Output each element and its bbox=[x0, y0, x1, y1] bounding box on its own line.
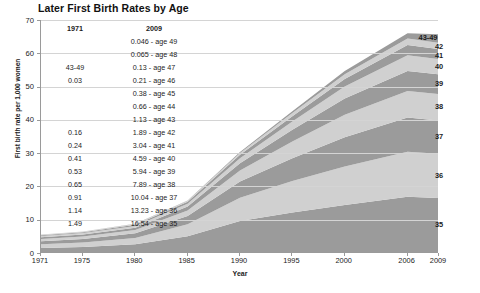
annotation-value-2009: 0.046 - age 49 bbox=[104, 35, 204, 48]
annotation-row: 0.66 - age 44 bbox=[46, 100, 211, 113]
annotation-row: 0.161.89 - age 42 bbox=[46, 126, 211, 139]
annotation-rows: 0.046 - age 490.065 - age 4843-490.13 - … bbox=[46, 35, 211, 231]
x-axis-tick-label: 2009 bbox=[418, 256, 458, 265]
annotation-value-2009: 4.59 - age 40 bbox=[104, 152, 204, 165]
annotation-value-2009: 5.94 - age 39 bbox=[104, 165, 204, 178]
series-label-35: 35 bbox=[419, 220, 459, 229]
x-axis-tick-label: 2000 bbox=[324, 256, 364, 265]
y-axis-tick-label: 50 bbox=[8, 82, 34, 91]
annotation-value-1971: 0.03 bbox=[46, 74, 104, 87]
annotation-row: 0.030.21 - age 46 bbox=[46, 74, 211, 87]
annotation-row: 0.9110.04 - age 37 bbox=[46, 191, 211, 204]
gridline bbox=[41, 20, 438, 21]
x-axis-tick-mark bbox=[291, 253, 292, 256]
annotation-value-2009: 1.89 - age 42 bbox=[104, 126, 204, 139]
annotation-row: 0.414.59 - age 40 bbox=[46, 152, 211, 165]
y-axis-tick-label: 60 bbox=[8, 49, 34, 58]
col-2009-header: 2009 bbox=[104, 24, 204, 33]
annotation-row: 1.1413.23 - age 36 bbox=[46, 204, 211, 217]
annotation-row: 0.046 - age 49 bbox=[46, 35, 211, 48]
chart-title: Later First Birth Rates by Age bbox=[38, 2, 438, 14]
y-axis-tick-label: 20 bbox=[8, 182, 34, 191]
x-axis-tick-mark bbox=[134, 253, 135, 256]
annotation-value-2009: 7.89 - age 38 bbox=[104, 178, 204, 191]
annotation-value-1971 bbox=[46, 48, 104, 61]
x-axis-tick-label: 1995 bbox=[271, 256, 311, 265]
annotation-row: 1.4916.54 - age 35 bbox=[46, 217, 211, 230]
x-axis-tick-mark bbox=[40, 253, 41, 256]
annotation-value-1971: 0.91 bbox=[46, 191, 104, 204]
col-1971-header: 1971 bbox=[46, 24, 104, 33]
annotation-value-2009: 1.13 - age 43 bbox=[104, 113, 204, 126]
annotation-row: 43-490.13 - age 47 bbox=[46, 61, 211, 74]
annotation-row: 0.065 - age 48 bbox=[46, 48, 211, 61]
annotation-value-2009: 0.38 - age 45 bbox=[104, 87, 204, 100]
y-axis-tick-label: 40 bbox=[8, 115, 34, 124]
series-label-39: 39 bbox=[419, 79, 459, 88]
series-label-40: 40 bbox=[419, 62, 459, 71]
series-label-42: 42 bbox=[419, 42, 459, 51]
x-axis-label: Year bbox=[0, 270, 480, 277]
x-axis-tick-mark bbox=[344, 253, 345, 256]
annotation-value-2009: 3.04 - age 41 bbox=[104, 139, 204, 152]
annotation-value-1971: 0.53 bbox=[46, 165, 104, 178]
annotation-value-2009: 0.13 - age 47 bbox=[104, 61, 204, 74]
series-label-41: 41 bbox=[419, 51, 459, 60]
x-axis-tick-mark bbox=[407, 253, 408, 256]
annotation-row: 0.38 - age 45 bbox=[46, 87, 211, 100]
x-axis-tick-mark bbox=[82, 253, 83, 256]
annotation-value-1971: 0.65 bbox=[46, 178, 104, 191]
series-label-38: 38 bbox=[419, 102, 459, 111]
annotation-row: 0.657.89 - age 38 bbox=[46, 178, 211, 191]
chart-root: Later First Birth Rates by Age First bir… bbox=[0, 0, 480, 293]
series-label-43-49: 43-49 bbox=[408, 33, 448, 42]
x-axis-tick-label: 1975 bbox=[62, 256, 102, 265]
annotation-value-1971: 0.41 bbox=[46, 152, 104, 165]
annotation-value-2009: 13.23 - age 36 bbox=[104, 204, 204, 217]
annotation-value-2009: 0.21 - age 46 bbox=[104, 74, 204, 87]
annotation-value-1971 bbox=[46, 100, 104, 113]
series-label-37: 37 bbox=[419, 132, 459, 141]
x-axis-tick-label: 1985 bbox=[167, 256, 207, 265]
x-axis-tick-label: 1980 bbox=[114, 256, 154, 265]
annotation-value-1971 bbox=[46, 35, 104, 48]
annotation-value-1971 bbox=[46, 87, 104, 100]
x-axis-tick-label: 1971 bbox=[20, 256, 60, 265]
x-axis-tick-label: 1990 bbox=[219, 256, 259, 265]
annotation-row: 0.535.94 - age 39 bbox=[46, 165, 211, 178]
y-axis-tick-label: 70 bbox=[8, 16, 34, 25]
annotation-value-2009: 0.065 - age 48 bbox=[104, 48, 204, 61]
annotation-value-1971: 0.16 bbox=[46, 126, 104, 139]
annotation-value-1971: 0.24 bbox=[46, 139, 104, 152]
x-axis-tick-mark bbox=[239, 253, 240, 256]
y-axis-tick-label: 30 bbox=[8, 149, 34, 158]
annotation-table: 1971 2009 0.046 - age 490.065 - age 4843… bbox=[46, 24, 211, 230]
annotation-value-1971: 1.14 bbox=[46, 204, 104, 217]
x-axis-tick-mark bbox=[438, 253, 439, 256]
annotation-value-1971: 43-49 bbox=[46, 61, 104, 74]
annotation-value-2009: 16.54 - age 35 bbox=[104, 217, 204, 230]
annotation-value-2009: 10.04 - age 37 bbox=[104, 191, 204, 204]
annotation-row: 1.13 - age 43 bbox=[46, 113, 211, 126]
x-axis-tick-mark bbox=[187, 253, 188, 256]
annotation-value-1971 bbox=[46, 113, 104, 126]
series-label-36: 36 bbox=[419, 171, 459, 180]
annotation-row: 0.243.04 - age 41 bbox=[46, 139, 211, 152]
annotation-value-1971: 1.49 bbox=[46, 217, 104, 230]
annotation-value-2009: 0.66 - age 44 bbox=[104, 100, 204, 113]
annotation-header: 1971 2009 bbox=[46, 24, 211, 33]
y-axis-tick-label: 10 bbox=[8, 215, 34, 224]
